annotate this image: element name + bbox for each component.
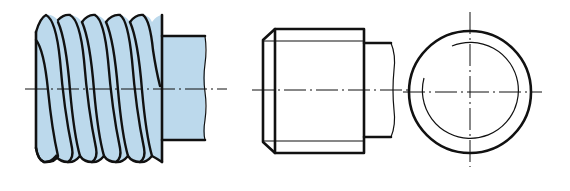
pictorial-view <box>25 15 227 162</box>
end-view <box>403 12 542 167</box>
body-outline <box>263 29 364 153</box>
shank-fill <box>160 36 205 140</box>
technical-drawing <box>0 0 570 191</box>
side-view <box>252 29 410 153</box>
